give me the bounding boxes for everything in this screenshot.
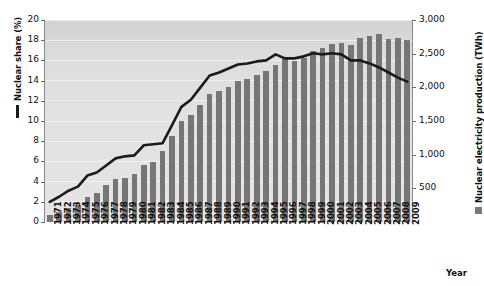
x-tick-label-1974: 1974 [81, 201, 91, 225]
x-tick-label-2003: 2003 [354, 201, 364, 225]
nuclear-share-line [50, 53, 408, 201]
chart-title [0, 0, 483, 10]
x-tick-label-1983: 1983 [166, 201, 176, 225]
x-tick-label-2000: 2000 [326, 201, 336, 225]
left-axis-title-text: Nuclear share (%) [13, 17, 23, 101]
left-tick-label: 0 [33, 216, 39, 226]
left-tick-label: 10 [28, 115, 39, 125]
left-tick-label: 18 [28, 34, 39, 44]
left-tick [41, 121, 45, 122]
right-tick-label: 1,500 [419, 115, 445, 125]
left-tick [41, 20, 45, 21]
x-axis-tick-labels: 1971197219731974197519761977197819791980… [45, 222, 412, 272]
x-tick-label-1991: 1991 [241, 201, 251, 225]
right-tick-label: 2,500 [419, 48, 445, 58]
left-tick-label: 12 [28, 95, 39, 105]
bar-legend-swatch [475, 207, 482, 214]
x-tick-label-1996: 1996 [288, 201, 298, 225]
left-tick-label: 6 [33, 155, 39, 165]
right-tick [412, 188, 416, 189]
x-tick-label-1988: 1988 [213, 201, 223, 225]
right-axis-title-text: Nuclear electricity production (TWh) [474, 32, 484, 203]
left-tick [41, 81, 45, 82]
x-tick-label-2001: 2001 [336, 201, 346, 225]
line-series [45, 20, 412, 222]
line-legend-swatch [16, 105, 19, 118]
x-tick-label-1986: 1986 [194, 201, 204, 225]
left-tick-label: 2 [33, 196, 39, 206]
x-tick-label-2008: 2008 [401, 201, 411, 225]
right-tick-label: 2,000 [419, 81, 445, 91]
x-tick-label-2005: 2005 [373, 201, 383, 225]
left-tick-label: 8 [33, 135, 39, 145]
left-axis-title: Nuclear share (%) [13, 17, 23, 118]
left-tick-label: 16 [28, 54, 39, 64]
left-tick [41, 182, 45, 183]
left-tick-label: 4 [33, 176, 39, 186]
right-tick-label: 1,000 [419, 149, 445, 159]
x-tick-label-1971: 1971 [53, 201, 63, 225]
x-tick-label-2009: 2009 [411, 201, 421, 225]
right-tick [412, 54, 416, 55]
left-tick [41, 202, 45, 203]
right-tick-label: 3,000 [419, 14, 445, 24]
left-tick-label: 14 [28, 75, 39, 85]
left-tick-label: 20 [28, 14, 39, 24]
right-tick-label: 500 [419, 182, 436, 192]
left-tick [41, 101, 45, 102]
right-tick [412, 155, 416, 156]
left-tick [41, 60, 45, 61]
x-tick-label-1981: 1981 [147, 201, 157, 225]
x-tick-label-1998: 1998 [307, 201, 317, 225]
x-tick-label-1976: 1976 [100, 201, 110, 225]
x-tick-label-1979: 1979 [128, 201, 138, 225]
left-tick [41, 141, 45, 142]
plot-area [45, 20, 412, 222]
left-tick [41, 161, 45, 162]
right-tick [412, 121, 416, 122]
right-axis-title: Nuclear electricity production (TWh) [474, 32, 484, 214]
x-axis-title: Year [446, 268, 467, 278]
x-tick-label-1993: 1993 [260, 201, 270, 225]
right-tick [412, 20, 416, 21]
right-tick [412, 87, 416, 88]
left-tick [41, 40, 45, 41]
